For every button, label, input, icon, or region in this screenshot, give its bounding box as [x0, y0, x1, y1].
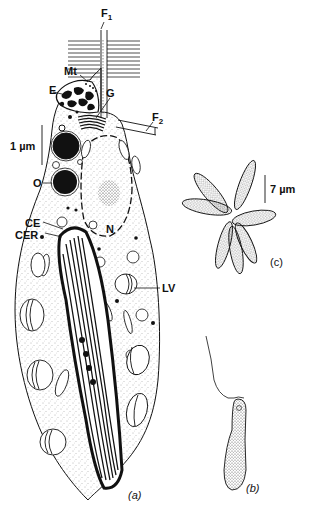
label-g: G: [106, 88, 115, 99]
flagellum-f1: [101, 30, 107, 118]
scale-label-a: 1 µm: [10, 141, 35, 152]
panel-c-colony: [181, 159, 277, 275]
panel-b-cell: [206, 336, 246, 490]
flagellum-b: [206, 336, 244, 398]
label-ce: CE: [25, 218, 40, 229]
panel-label-a: (a): [128, 490, 141, 501]
nucleolus: [98, 180, 120, 206]
panel-a-cell: [15, 22, 160, 500]
panel-label-c: (c): [270, 257, 283, 268]
label-f2: F2: [152, 112, 163, 123]
label-cer: CER: [15, 230, 38, 241]
label-f1: F1: [101, 8, 112, 19]
scale-label-c: 7 µm: [270, 184, 295, 195]
label-e: E: [49, 85, 56, 96]
mastigonemes: [68, 41, 140, 77]
label-o: O: [33, 178, 42, 189]
label-lv: LV: [162, 283, 175, 294]
label-mt: Mt: [64, 66, 77, 77]
cell-diagram: [0, 0, 311, 511]
panel-label-b: (b): [246, 483, 259, 494]
label-n: N: [106, 224, 114, 235]
